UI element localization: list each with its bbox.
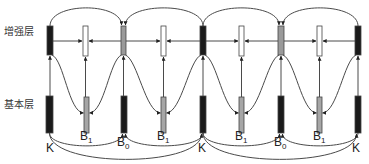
frame-label-b: B1	[80, 129, 93, 145]
frame-label-b: B0	[117, 135, 130, 151]
prediction-arrow	[323, 55, 357, 113]
base-frame-4	[200, 96, 206, 133]
base-frame-5	[239, 97, 244, 133]
prediction-arrow	[205, 55, 239, 113]
enhancement-frame-3	[161, 26, 166, 56]
frame-label-b: B1	[235, 129, 248, 145]
base-frame-8	[355, 96, 361, 133]
frame-label-b: B0	[274, 135, 287, 151]
prediction-arrow	[203, 8, 279, 26]
base-frame-6	[278, 96, 284, 133]
base-layer-frames	[46, 96, 361, 133]
frame-label-k: K	[198, 141, 206, 155]
prediction-arrow	[283, 55, 317, 113]
frame-label-b: B1	[157, 129, 170, 145]
enhancement-frame-4	[200, 26, 206, 55]
base-frame-1	[84, 97, 89, 133]
enhancement-frame-8	[355, 26, 361, 55]
enhancement-frame-7	[317, 26, 322, 56]
prediction-arrow	[50, 8, 122, 26]
prediction-arrow	[283, 8, 358, 26]
enhancement-layer-label: 增强层	[4, 25, 34, 37]
enhancement-frame-0	[47, 26, 53, 55]
base-frame-0	[46, 96, 53, 133]
base-frame-3	[161, 97, 166, 133]
enhancement-frame-2	[121, 26, 126, 55]
prediction-arrow	[90, 55, 122, 113]
prediction-structure-diagram: 增强层 基本层 KB1B0B1KB1B0B1K	[0, 0, 369, 164]
base-frame-7	[317, 97, 322, 133]
enhancement-frame-1	[83, 26, 88, 56]
base-layer-label: 基本层	[4, 98, 34, 110]
base-frame-2	[121, 96, 127, 133]
frame-label-b: B1	[313, 129, 326, 145]
frame-label-k: K	[46, 141, 54, 155]
prediction-arrow	[245, 55, 280, 113]
prediction-arrow	[52, 55, 84, 113]
prediction-arrow	[167, 55, 202, 113]
enhancement-frame-6	[278, 26, 284, 55]
prediction-arrow	[126, 8, 204, 26]
frame-label-k: K	[352, 141, 360, 155]
prediction-arrow	[126, 55, 161, 113]
enhancement-frame-5	[239, 26, 244, 56]
